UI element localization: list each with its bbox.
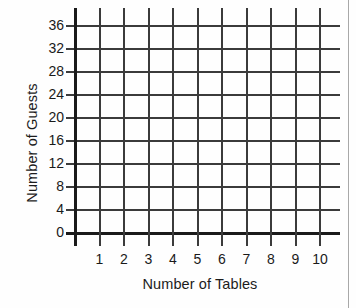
y-tick: 36 bbox=[38, 18, 64, 32]
gridline-horizontal bbox=[66, 48, 340, 50]
gridline-vertical bbox=[246, 8, 248, 246]
y-tick-label: 16 bbox=[38, 133, 64, 147]
y-tick: 8 bbox=[38, 179, 64, 193]
gridline-horizontal bbox=[66, 25, 340, 27]
y-tick: 28 bbox=[38, 64, 64, 78]
y-tick-label: 20 bbox=[38, 110, 64, 124]
y-tick-label: 28 bbox=[38, 64, 64, 78]
x-tick-label: 10 bbox=[305, 252, 335, 266]
y-axis-title: Number of Guests bbox=[24, 43, 40, 243]
chart-page: 3632282420161284012345678910 Number of G… bbox=[0, 0, 356, 308]
y-tick: 4 bbox=[38, 202, 64, 216]
y-tick: 20 bbox=[38, 110, 64, 124]
gridline-vertical bbox=[99, 8, 101, 246]
gridline-vertical bbox=[172, 8, 174, 246]
gridline-vertical bbox=[295, 8, 297, 246]
y-tick: 32 bbox=[38, 41, 64, 55]
gridline-vertical bbox=[197, 8, 199, 246]
y-tick-label: 4 bbox=[38, 202, 64, 216]
gridline-horizontal bbox=[66, 140, 340, 142]
y-axis-line bbox=[74, 8, 77, 246]
gridline-horizontal bbox=[66, 117, 340, 119]
gridline-horizontal bbox=[66, 186, 340, 188]
y-tick: 16 bbox=[38, 133, 64, 147]
y-tick-label: 12 bbox=[38, 156, 64, 170]
y-tick-label: 0 bbox=[38, 225, 64, 239]
gridline-horizontal bbox=[66, 163, 340, 165]
y-tick-label: 32 bbox=[38, 41, 64, 55]
gridline-horizontal bbox=[66, 209, 340, 211]
gridline-vertical bbox=[221, 8, 223, 246]
y-tick-label: 8 bbox=[38, 179, 64, 193]
gridline-horizontal bbox=[66, 94, 340, 96]
x-axis-line bbox=[66, 232, 340, 235]
y-tick: 24 bbox=[38, 87, 64, 101]
gridline-horizontal bbox=[66, 71, 340, 73]
gridline-vertical bbox=[270, 8, 272, 246]
gridline-vertical bbox=[319, 8, 321, 246]
gridline-vertical bbox=[148, 8, 150, 246]
gridline-vertical bbox=[123, 8, 125, 246]
y-tick: 12 bbox=[38, 156, 64, 170]
x-axis-title: Number of Tables bbox=[75, 276, 325, 292]
y-tick: 0 bbox=[38, 225, 64, 239]
page-edge-rule bbox=[348, 0, 349, 308]
y-tick-label: 36 bbox=[38, 18, 64, 32]
y-tick-label: 24 bbox=[38, 87, 64, 101]
plot-area: 3632282420161284012345678910 bbox=[0, 0, 356, 308]
